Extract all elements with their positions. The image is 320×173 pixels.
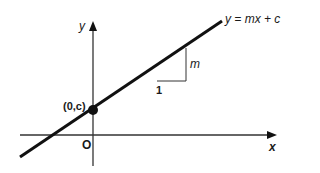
origin-label: O [82,139,91,151]
line-y-mx-c [20,21,222,157]
run-label: 1 [156,85,162,96]
equation-label: y = mx + c [225,13,280,25]
y-axis-label: y [79,20,85,32]
x-axis-label: x [269,141,276,153]
intercept-label: (0,c) [63,101,86,112]
gradient-triangle [157,48,186,81]
rise-label: m [190,58,200,70]
intercept-point [88,105,98,115]
y-axis-arrow-icon [89,21,97,31]
x-axis-arrow-icon [267,131,277,139]
